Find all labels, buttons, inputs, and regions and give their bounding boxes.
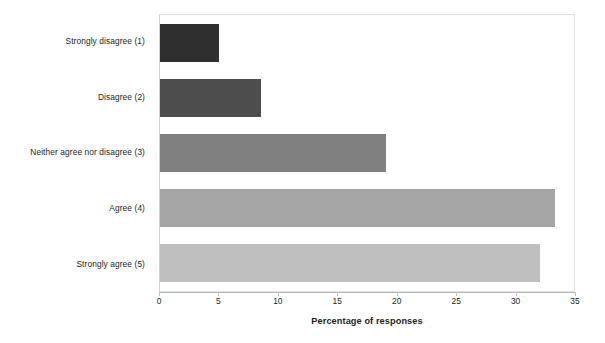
- x-axis-tick-label: 0: [157, 296, 162, 306]
- x-axis-title: Percentage of responses: [159, 316, 575, 326]
- category-label: Neither agree nor disagree (3): [30, 148, 145, 157]
- bar-row: [160, 236, 574, 291]
- x-axis-tick-label: 20: [392, 296, 401, 306]
- bar-row: [160, 181, 574, 236]
- category-axis-labels: Strongly disagree (1) Disagree (2) Neith…: [0, 14, 152, 292]
- bar-row: [160, 15, 574, 70]
- category-label-row: Neither agree nor disagree (3): [0, 125, 152, 181]
- category-label-row: Strongly agree (5): [0, 236, 152, 292]
- bars-layer: [160, 15, 574, 291]
- category-label-row: Agree (4): [0, 181, 152, 237]
- category-label: Strongly disagree (1): [65, 37, 145, 46]
- x-axis-tick-label: 5: [216, 296, 221, 306]
- x-axis-tick-label: 30: [511, 296, 520, 306]
- category-label: Strongly agree (5): [76, 260, 145, 269]
- bar-disagree: [160, 79, 261, 117]
- bar-row: [160, 70, 574, 125]
- bar-row: [160, 125, 574, 180]
- category-label-row: Strongly disagree (1): [0, 14, 152, 70]
- x-axis-tick-label: 15: [333, 296, 342, 306]
- bar-chart: Strongly disagree (1) Disagree (2) Neith…: [0, 0, 605, 343]
- category-label: Disagree (2): [98, 93, 145, 102]
- bar-strongly-agree: [160, 244, 540, 282]
- x-axis-tick-label: 10: [273, 296, 282, 306]
- x-axis-tick-labels: 05101520253035: [159, 296, 575, 310]
- bar-neither: [160, 134, 386, 172]
- category-label-row: Disagree (2): [0, 70, 152, 126]
- bar-strongly-disagree: [160, 24, 219, 62]
- x-axis-tick-label: 25: [451, 296, 460, 306]
- plot-area: [159, 14, 575, 292]
- category-label: Agree (4): [109, 204, 145, 213]
- bar-agree: [160, 189, 555, 227]
- x-axis-tick-label: 35: [570, 296, 579, 306]
